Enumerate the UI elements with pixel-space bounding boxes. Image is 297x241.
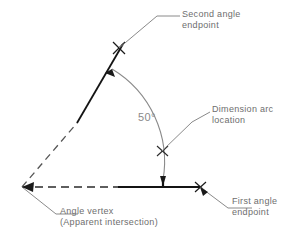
label-angle-vertex: Angle vertex (Apparent intersection) xyxy=(60,206,158,228)
dimension-arc xyxy=(112,69,165,180)
label-dimension-arc-location: Dimension arc location xyxy=(212,104,273,126)
label-first-angle-endpoint-line2: endpoint xyxy=(232,207,277,218)
label-first-angle-endpoint: First angle endpoint xyxy=(232,196,277,218)
leader-second-angle-endpoint xyxy=(119,16,180,48)
angled-ray-dashed-segment xyxy=(22,123,77,187)
label-dimension-arc-location-line2: location xyxy=(212,115,273,126)
label-first-angle-endpoint-line1: First angle xyxy=(232,196,277,206)
angle-vertex-arrowhead xyxy=(22,182,34,192)
label-second-angle-endpoint: Second angle endpoint xyxy=(182,9,241,31)
angled-ray-solid-segment xyxy=(77,44,123,123)
leader-first-angle-endpoint-arrowhead xyxy=(200,187,208,196)
label-second-angle-endpoint-line2: endpoint xyxy=(182,20,241,31)
angle-value-label: 50° xyxy=(138,111,156,123)
label-angle-vertex-line2: (Apparent intersection) xyxy=(60,217,158,228)
label-dimension-arc-location-line1: Dimension arc xyxy=(212,104,273,114)
label-second-angle-endpoint-line1: Second angle xyxy=(182,9,241,19)
leader-dimension-arc-location xyxy=(162,112,210,151)
label-angle-vertex-line1: Angle vertex xyxy=(60,206,114,216)
angular-dimension-diagram: Second angle endpoint Dimension arc loca… xyxy=(0,0,297,241)
